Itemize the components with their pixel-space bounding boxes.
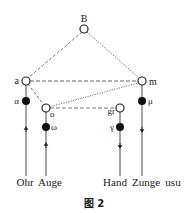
label-mu: μ [148, 96, 153, 106]
label-B: B [81, 13, 88, 24]
edge-B-a [28, 32, 82, 78]
label-a: a [15, 75, 20, 86]
figure-caption: 图 2 [84, 198, 104, 209]
label-gr: gr [108, 106, 116, 116]
node-o [42, 104, 50, 112]
node-alpha [22, 97, 30, 105]
node-a [22, 77, 30, 85]
edge-o-m [49, 83, 138, 107]
label-hand: Hand [103, 176, 127, 188]
label-omega: ω [51, 122, 57, 132]
node-mu [138, 97, 146, 105]
diagram-figure: B a m α μ o gr ω γ Ohr Auge Hand Zunge u… [0, 0, 190, 213]
label-m: m [149, 76, 157, 87]
label-auge: Auge [38, 176, 62, 188]
node-m [138, 77, 146, 85]
label-zunge: Zunge [132, 176, 160, 188]
node-gamma [116, 123, 124, 131]
label-ohr: Ohr [16, 176, 33, 188]
node-omega [42, 123, 50, 131]
label-alpha: α [14, 96, 19, 106]
node-gr [116, 104, 124, 112]
label-o: o [50, 109, 55, 119]
node-B [80, 25, 88, 33]
edge-a-o [28, 84, 44, 105]
label-usu: usu [165, 176, 181, 188]
edge-B-m [87, 32, 139, 78]
label-gamma: γ [109, 122, 114, 132]
